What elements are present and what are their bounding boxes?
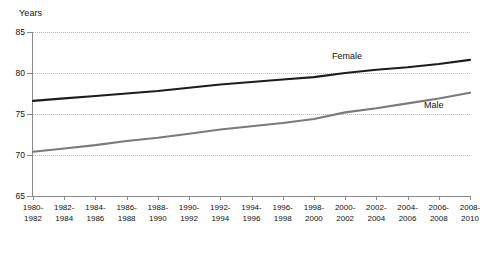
y-tick-mark [27, 73, 33, 74]
y-tick-mark [27, 155, 33, 156]
x-tick-label: 2008-2010 [450, 202, 490, 224]
line-male [33, 93, 470, 152]
y-tick-mark [27, 32, 33, 33]
x-tick-mark [408, 196, 409, 200]
x-tick-label-line: 2008- [450, 202, 490, 213]
x-tick-mark [64, 196, 65, 200]
x-tick-mark [376, 196, 377, 200]
x-tick-mark [283, 196, 284, 200]
life-expectancy-line-chart: Years 8580757065 Female Male 1980-198219… [0, 0, 496, 253]
x-tick-mark [95, 196, 96, 200]
series-label-male: Male [424, 100, 444, 110]
x-tick-mark [470, 196, 471, 200]
x-tick-mark [345, 196, 346, 200]
x-tick-mark [189, 196, 190, 200]
y-tick-mark [27, 114, 33, 115]
line-female [33, 60, 470, 101]
x-tick-mark [252, 196, 253, 200]
series-label-female: Female [332, 51, 362, 61]
x-tick-mark [33, 196, 34, 200]
x-tick-mark [314, 196, 315, 200]
x-tick-mark [220, 196, 221, 200]
x-tick-mark [158, 196, 159, 200]
x-tick-label-line: 2010 [450, 213, 490, 224]
x-tick-mark [439, 196, 440, 200]
x-tick-mark [127, 196, 128, 200]
